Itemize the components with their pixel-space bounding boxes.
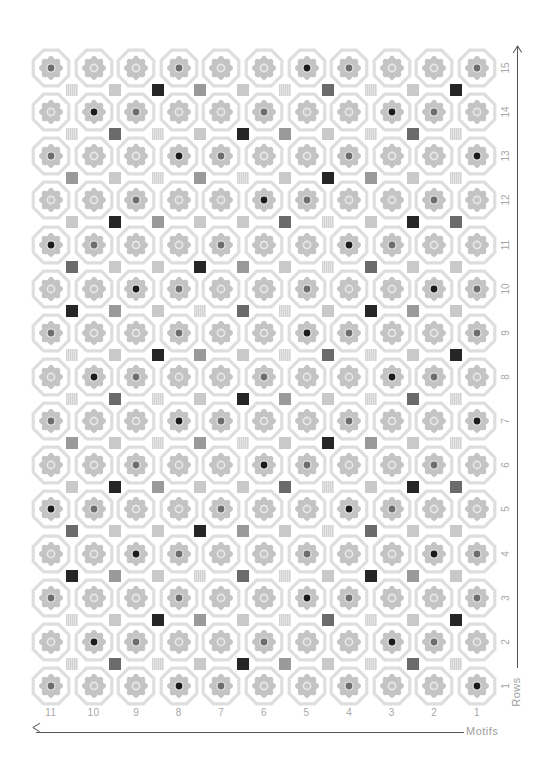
spacer-square [365, 658, 377, 670]
spacer-square [279, 261, 291, 273]
spacer-square [66, 658, 78, 670]
row-label: 3 [500, 588, 514, 608]
flower-motif [114, 664, 158, 708]
column-label: 3 [377, 707, 407, 718]
spacer-square [279, 305, 291, 317]
spacer-square [109, 570, 121, 582]
flower-motif [72, 664, 116, 708]
spacer-square [450, 261, 462, 273]
octagon-flower-icon [285, 664, 329, 708]
spacer-square [322, 393, 334, 405]
row-label: 15 [500, 58, 514, 78]
octagon-flower-icon [199, 664, 243, 708]
spacer-square [237, 216, 249, 228]
spacer-square [66, 84, 78, 96]
row-label: 12 [500, 190, 514, 210]
spacer-square [109, 349, 121, 361]
spacer-square [66, 614, 78, 626]
spacer-square [109, 305, 121, 317]
motif-grid [0, 0, 549, 770]
flower-motif [455, 664, 499, 708]
spacer-square [194, 128, 206, 140]
spacer-square [66, 216, 78, 228]
spacer-square [365, 393, 377, 405]
spacer-square [450, 349, 462, 361]
spacer-square [194, 216, 206, 228]
spacer-square [322, 84, 334, 96]
flower-motif [327, 664, 371, 708]
spacer-square [279, 172, 291, 184]
spacer-square [152, 84, 164, 96]
spacer-square [365, 261, 377, 273]
spacer-square [407, 393, 419, 405]
column-label: 4 [334, 707, 364, 718]
spacer-square [279, 525, 291, 537]
spacer-square [109, 261, 121, 273]
spacer-square [407, 481, 419, 493]
spacer-square [279, 349, 291, 361]
spacer-square [152, 349, 164, 361]
spacer-square [109, 172, 121, 184]
spacer-square [450, 437, 462, 449]
spacer-square [237, 128, 249, 140]
spacer-square [109, 614, 121, 626]
column-label: 5 [292, 707, 322, 718]
spacer-square [407, 84, 419, 96]
row-label: 9 [500, 323, 514, 343]
spacer-square [407, 172, 419, 184]
column-label: 10 [79, 707, 109, 718]
spacer-square [194, 349, 206, 361]
spacer-square [66, 437, 78, 449]
spacer-square [237, 349, 249, 361]
octagon-flower-icon [455, 664, 499, 708]
spacer-square [237, 481, 249, 493]
spacer-square [450, 305, 462, 317]
spacer-square [152, 128, 164, 140]
spacer-square [322, 172, 334, 184]
spacer-square [407, 658, 419, 670]
spacer-square [237, 261, 249, 273]
spacer-square [152, 216, 164, 228]
spacer-square [152, 172, 164, 184]
spacer-square [279, 614, 291, 626]
spacer-square [322, 614, 334, 626]
spacer-square [152, 525, 164, 537]
row-label: 10 [500, 279, 514, 299]
spacer-square [365, 525, 377, 537]
spacer-square [322, 658, 334, 670]
flower-motif [285, 664, 329, 708]
spacer-square [237, 393, 249, 405]
spacer-square [237, 305, 249, 317]
spacer-square [194, 614, 206, 626]
spacer-square [152, 658, 164, 670]
spacer-square [194, 570, 206, 582]
spacer-square [237, 614, 249, 626]
spacer-square [450, 216, 462, 228]
column-label: 9 [121, 707, 151, 718]
spacer-square [109, 658, 121, 670]
spacer-square [194, 172, 206, 184]
flower-motif [199, 664, 243, 708]
spacer-square [109, 393, 121, 405]
spacer-square [450, 525, 462, 537]
spacer-square [279, 570, 291, 582]
spacer-square [365, 128, 377, 140]
flower-motif [370, 664, 414, 708]
spacer-square [152, 305, 164, 317]
spacer-square [279, 84, 291, 96]
spacer-square [322, 216, 334, 228]
spacer-square [450, 172, 462, 184]
spacer-square [66, 128, 78, 140]
spacer-square [237, 84, 249, 96]
spacer-square [407, 525, 419, 537]
spacer-square [365, 172, 377, 184]
spacer-square [194, 658, 206, 670]
spacer-square [194, 525, 206, 537]
spacer-square [365, 216, 377, 228]
spacer-square [279, 393, 291, 405]
row-label: 6 [500, 455, 514, 475]
spacer-square [109, 437, 121, 449]
row-label: 8 [500, 367, 514, 387]
spacer-square [237, 172, 249, 184]
row-label: 7 [500, 411, 514, 431]
